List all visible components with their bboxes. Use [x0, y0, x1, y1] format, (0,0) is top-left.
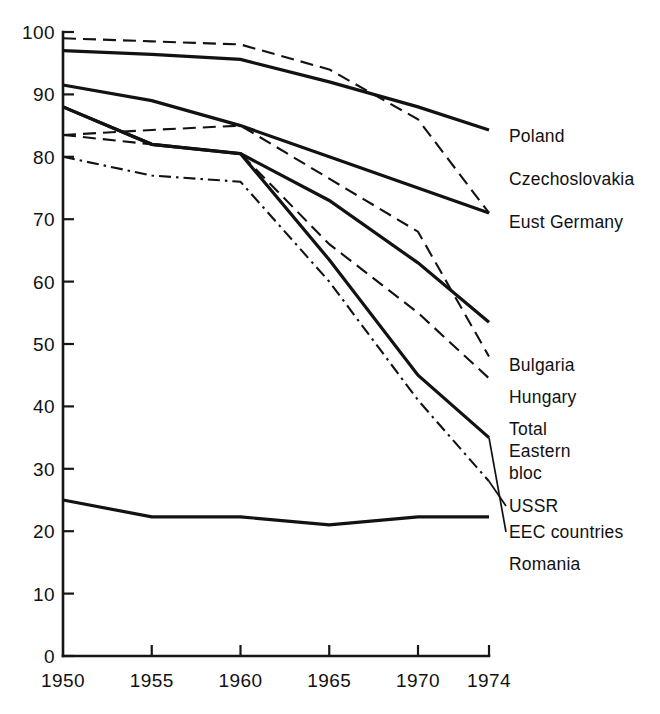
- series-label-czechoslovakia: Czechoslovakia: [509, 169, 634, 189]
- series-label-total-eastern-bloc-line1: Total: [509, 419, 547, 439]
- x-axis-tick-labels: 195019551960196519701974: [41, 670, 511, 691]
- x-tick-label: 1960: [219, 670, 263, 691]
- x-tick-label: 1950: [41, 670, 85, 691]
- series-line-romania: [63, 500, 489, 525]
- series-label-eec-countries: EEC countries: [509, 522, 624, 542]
- y-tick-label: 50: [33, 334, 55, 355]
- series-line-east-germany: [63, 38, 489, 213]
- series-label-bulgaria: Bulgaria: [509, 355, 575, 375]
- y-tick-label: 0: [44, 646, 55, 667]
- y-tick-label: 30: [33, 459, 55, 480]
- y-tick-label: 90: [33, 84, 55, 105]
- chart-canvas: 0102030405060708090100 19501955196019651…: [0, 0, 660, 714]
- series-label-total-eastern-bloc-line2: Eastern: [509, 441, 571, 461]
- series-label-romania: Romania: [509, 554, 581, 574]
- series-label-ussr: USSR: [509, 496, 558, 516]
- series-label-poland: Poland: [509, 126, 565, 146]
- y-tick-label: 80: [33, 147, 55, 168]
- series-label-east-germany: Eust Germany: [509, 212, 623, 232]
- x-tick-label: 1974: [467, 670, 511, 691]
- series-label-total-eastern-bloc-line3: bloc: [509, 463, 542, 483]
- series-lines: [63, 38, 489, 525]
- y-tick-label: 60: [33, 272, 55, 293]
- series-label-hungary: Hungary: [509, 387, 577, 407]
- y-tick-label: 100: [22, 22, 55, 43]
- y-tick-label: 10: [33, 584, 55, 605]
- y-tick-label: 20: [33, 521, 55, 542]
- line-chart: 0102030405060708090100 19501955196019651…: [0, 0, 660, 714]
- series-line-eec-countries: [63, 107, 489, 438]
- x-tick-label: 1955: [130, 670, 174, 691]
- y-axis-tick-labels: 0102030405060708090100: [22, 22, 55, 667]
- series-line-hungary: [63, 126, 489, 357]
- y-tick-label: 70: [33, 209, 55, 230]
- x-tick-label: 1965: [307, 670, 351, 691]
- x-tick-label: 1970: [396, 670, 440, 691]
- label-leader-lines: [489, 438, 506, 532]
- x-axis-ticks: [152, 645, 489, 656]
- y-axis-ticks: [63, 32, 74, 656]
- y-tick-label: 40: [33, 396, 55, 417]
- series-line-poland: [63, 51, 489, 130]
